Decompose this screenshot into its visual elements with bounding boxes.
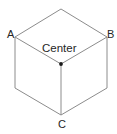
- cube-drawing: [0, 0, 117, 134]
- center-label: Center: [42, 43, 77, 55]
- edge-right-lower-to-c: [61, 88, 107, 115]
- edge-top-to-b: [61, 9, 107, 37]
- vertex-label-a: A: [7, 29, 14, 40]
- vertex-label-c: C: [58, 119, 66, 130]
- vertex-label-b: B: [107, 29, 114, 40]
- center-point-dot: [59, 62, 63, 66]
- edge-a-to-top: [15, 9, 61, 37]
- cube-figure: A B Center C: [0, 0, 117, 134]
- edge-left-lower-to-c: [15, 88, 61, 115]
